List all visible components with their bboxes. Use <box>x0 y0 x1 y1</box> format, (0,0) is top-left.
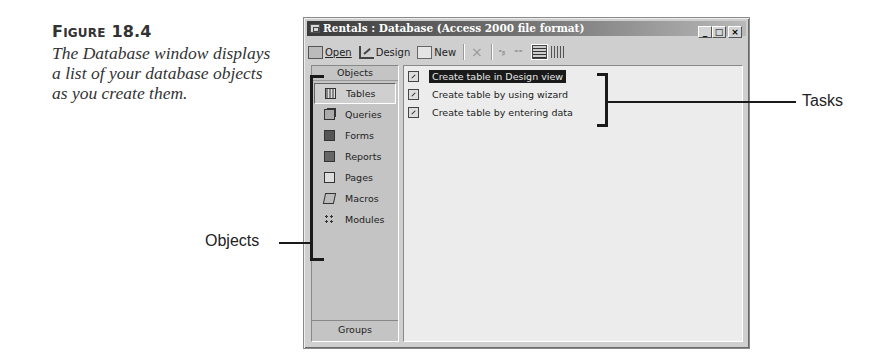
database-icon <box>310 24 320 33</box>
shortcut-icon <box>408 71 419 82</box>
objects-item-forms[interactable]: Forms <box>312 125 398 146</box>
figure-caption-text: The Database window displays a list of y… <box>52 43 272 103</box>
delete-icon[interactable]: × <box>471 44 483 60</box>
table-icon <box>325 88 336 99</box>
close-button[interactable]: × <box>728 26 742 38</box>
objects-item-pages[interactable]: Pages <box>312 167 398 188</box>
new-button[interactable]: New <box>417 46 456 59</box>
shortcut-icon <box>408 89 419 100</box>
toolbar-separator <box>463 44 465 60</box>
objects-bracket <box>310 258 324 261</box>
window-title: Rentals : Database (Access 2000 file for… <box>323 22 584 34</box>
maximize-button[interactable]: □ <box>712 26 726 38</box>
objects-leader-line <box>279 242 311 244</box>
database-window: Rentals : Database (Access 2000 file for… <box>303 17 750 349</box>
small-icons-icon[interactable]: ⁼⁼ <box>514 48 522 57</box>
toolbar-separator <box>491 44 493 60</box>
macro-icon <box>323 193 336 204</box>
objects-bracket <box>310 75 313 261</box>
task-create-table-wizard[interactable]: Create table by using wizard <box>408 87 571 102</box>
form-icon <box>324 130 335 141</box>
large-icons-icon[interactable]: ᵃᵦ <box>499 48 505 57</box>
title-bar[interactable]: Rentals : Database (Access 2000 file for… <box>307 21 746 36</box>
objects-item-reports[interactable]: Reports <box>312 146 398 167</box>
toolbar: Open Design New × ᵃᵦ ⁼⁼ <box>308 42 745 62</box>
figure-caption: FIGURE 18.4 The Database window displays… <box>52 22 272 103</box>
objects-item-tables[interactable]: Tables <box>314 83 396 104</box>
object-list: Create table in Design view Create table… <box>403 65 743 342</box>
objects-item-modules[interactable]: Modules <box>312 209 398 230</box>
minimize-button[interactable]: _ <box>698 26 712 38</box>
module-icon <box>324 214 335 225</box>
open-icon <box>308 46 323 59</box>
tasks-bracket <box>597 124 608 127</box>
report-icon <box>324 151 335 162</box>
groups-button[interactable]: Groups <box>312 320 398 339</box>
shortcut-icon <box>408 107 419 118</box>
task-create-table-design-view[interactable]: Create table in Design view <box>408 69 566 84</box>
objects-bar: Objects Tables Queries Forms Reports Pag… <box>311 65 399 342</box>
query-icon <box>324 109 335 120</box>
new-icon <box>417 46 432 59</box>
objects-item-macros[interactable]: Macros <box>312 188 398 209</box>
open-button[interactable]: Open <box>308 46 352 59</box>
list-view-icon[interactable] <box>532 45 547 59</box>
objects-callout-label: Objects <box>205 232 259 250</box>
figure-label: FIGURE 18.4 <box>52 22 272 41</box>
details-view-icon[interactable] <box>551 46 565 58</box>
tasks-leader-line <box>608 101 796 103</box>
tasks-bracket <box>605 73 608 127</box>
design-icon <box>359 46 374 59</box>
task-create-table-entering-data[interactable]: Create table by entering data <box>408 105 576 120</box>
objects-header[interactable]: Objects <box>312 66 398 81</box>
design-button[interactable]: Design <box>359 46 411 59</box>
page-icon <box>324 172 335 183</box>
objects-item-queries[interactable]: Queries <box>312 104 398 125</box>
tasks-callout-label: Tasks <box>802 92 843 110</box>
